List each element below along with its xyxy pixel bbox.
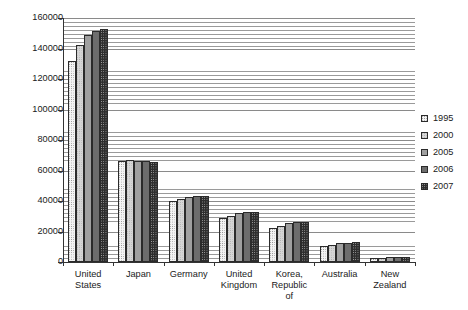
y-axis-tick-label: 100000 [7,105,63,114]
x-axis-category-label-line: of [264,291,314,302]
bar-group [365,18,415,262]
legend-swatch-icon [421,132,428,139]
bar [185,197,193,262]
bar-group [314,18,364,262]
bar-group [63,18,113,262]
bar [243,212,251,262]
legend-label: 1995 [433,114,453,123]
legend-swatch-icon [421,166,428,173]
bar [84,35,92,262]
x-axis-category-label-line: Germany [164,269,214,280]
bar [134,161,142,262]
x-axis-category-label-line: Korea, [264,269,314,280]
y-axis-tick-label: 20000 [7,227,63,236]
major-gridline [63,140,415,141]
bar [285,223,293,262]
legend-label: 2005 [433,148,453,157]
bar [352,242,360,262]
x-axis-category-label-line: United [214,269,264,280]
x-axis-tick-mark [314,262,315,266]
y-axis-tick-label: 60000 [7,166,63,175]
legend: 19952000200520062007 [421,110,468,195]
bar [142,161,150,262]
plot-area [63,18,415,262]
bar [201,196,209,262]
x-axis-category-label-line: Australia [314,269,364,280]
bar [100,29,108,262]
x-axis-tick-mark [214,262,215,266]
bar [293,222,301,262]
x-axis-tick-mark [164,262,165,266]
major-gridline [63,201,415,202]
y-axis-line [63,18,64,263]
major-gridlines [63,18,415,262]
x-axis-category-label: NewZealand [365,269,415,291]
x-axis-category-label-line: States [63,280,113,291]
bar-group [164,18,214,262]
x-axis-tick-mark [113,262,114,266]
bars-layer [63,18,415,262]
legend-swatch-icon [421,183,428,190]
x-axis-category-label: Germany [164,269,214,280]
bar [251,212,259,262]
x-axis-category-label: UnitedStates [63,269,113,291]
x-axis-category-label: Korea,Republicof [264,269,314,302]
major-gridline [63,49,415,50]
major-gridline [63,79,415,80]
x-axis-line [63,262,415,263]
legend-item[interactable]: 1995 [421,110,468,127]
x-axis-category-label: Australia [314,269,364,280]
major-gridline [63,110,415,111]
legend-label: 2000 [433,131,453,140]
bar [193,196,201,262]
bar [177,199,185,262]
bar [235,213,243,262]
bar [118,161,126,262]
bar-group [113,18,163,262]
legend-item[interactable]: 2007 [421,178,468,195]
x-axis-category-label-line: United [63,269,113,280]
bar [219,218,227,262]
legend-item[interactable]: 2005 [421,144,468,161]
bar-group [264,18,314,262]
major-gridline [63,18,415,19]
major-gridline [63,171,415,172]
y-axis-tick-label: 140000 [7,44,63,53]
x-axis-tick-mark [264,262,265,266]
x-axis-category-label: UnitedKingdom [214,269,264,291]
bar [169,201,177,262]
y-axis-tick-label: 80000 [7,135,63,144]
legend-item[interactable]: 2000 [421,127,468,144]
bar [301,222,309,262]
legend-label: 2007 [433,182,453,191]
y-axis-tick-label: 160000 [7,13,63,22]
bar [269,228,277,262]
bar [150,162,158,262]
bar-chart: 1600001400001200001000008000060000400002… [0,0,468,310]
bar-group [214,18,264,262]
legend-item[interactable]: 2006 [421,161,468,178]
bar [126,160,134,262]
bar [92,31,100,262]
x-axis-tick-mark [365,262,366,266]
gridlines [63,18,415,262]
major-gridline [63,232,415,233]
bar [336,243,344,262]
legend-swatch-icon [421,115,428,122]
legend-label: 2006 [433,165,453,174]
y-axis: 1600001400001200001000008000060000400002… [0,0,63,310]
x-axis-category-label-line: Kingdom [214,280,264,291]
x-axis-category-label: Japan [113,269,163,280]
bar [227,216,235,263]
y-axis-tick-label: 40000 [7,196,63,205]
y-axis-tick-label: 120000 [7,74,63,83]
x-axis-category-label-line: Zealand [365,280,415,291]
x-axis-category-label-line: Republic [264,280,314,291]
y-axis-tick-label: 0 [7,257,63,266]
bar [68,61,76,262]
bar [328,245,336,262]
bar [320,246,328,262]
bar [344,243,352,262]
x-axis-tick-mark [415,262,416,266]
bar [277,226,285,262]
